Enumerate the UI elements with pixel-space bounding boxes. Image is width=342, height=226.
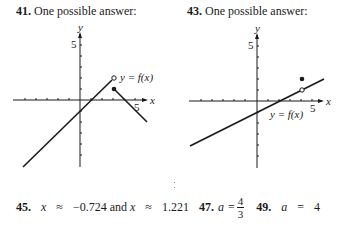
approx-sign: ≈: [56, 200, 63, 214]
x-axis-arrow-icon: [318, 99, 324, 103]
curve-label: y = f(x): [269, 108, 303, 121]
open-circle-icon: [300, 88, 304, 92]
x-tick-label-5: 5: [310, 102, 316, 114]
answer-49: 49. a = 4: [256, 200, 320, 215]
graphs: y 5 x 5 y = f(x) y 5 x 5 y = f(x): [0, 0, 342, 226]
curve-right-piece: [114, 89, 147, 122]
approx-sign: ≈: [145, 200, 152, 214]
answer-45: 45. x ≈ −0.724 and x ≈ 1.221: [16, 200, 189, 215]
answer-47: 47. a = 4 3: [199, 195, 246, 220]
variable: x: [130, 200, 135, 214]
variable: a: [218, 200, 224, 215]
x-axis-label: x: [149, 94, 155, 106]
equals-sign: =: [228, 200, 235, 215]
y-axis-label: y: [77, 21, 83, 33]
closed-dot-icon: [300, 77, 305, 82]
curve-left-piece: [23, 80, 112, 167]
value: −0.724: [73, 200, 107, 214]
problem-number: 45.: [16, 200, 31, 214]
open-circle-icon: [112, 76, 116, 80]
variable: x: [41, 200, 46, 214]
curve-label: y = f(x): [119, 71, 153, 84]
graph-41: [13, 32, 148, 167]
variable: a: [281, 200, 287, 214]
denominator: 3: [238, 208, 244, 220]
problem-number: 49.: [256, 200, 271, 214]
y-tick-label-5: 5: [248, 39, 254, 51]
x-tick-label-5: 5: [134, 101, 140, 113]
equals-sign: =: [297, 200, 304, 214]
value: 1.221: [162, 200, 189, 214]
y-tick-label-5: 5: [71, 38, 77, 50]
x-axis-label: x: [325, 95, 331, 107]
graph-43: [189, 33, 324, 168]
numerator: 4: [237, 195, 245, 208]
speck: [174, 182, 175, 188]
x-axis-arrow-icon: [142, 98, 148, 102]
fraction: 4 3: [237, 195, 245, 220]
value: 4: [314, 200, 320, 214]
y-axis-label: y: [254, 22, 260, 34]
problem-number: 47.: [199, 200, 214, 215]
conjunction: and: [110, 200, 127, 214]
answers-row: 45. x ≈ −0.724 and x ≈ 1.221 47. a = 4 3…: [16, 195, 320, 220]
